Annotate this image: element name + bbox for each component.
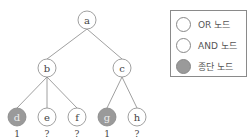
legend-item-and: AND 노드 (176, 36, 237, 54)
tree-node-b: b (38, 59, 56, 77)
and-node-icon (176, 38, 191, 53)
legend-item-terminal: 종단 노드 (176, 57, 233, 75)
or-node-icon (176, 17, 191, 32)
tree-edge (47, 29, 87, 59)
svg-text:c: c (119, 63, 125, 74)
tree-node-g: g1 (98, 108, 116, 139)
terminal-node-icon (176, 59, 191, 74)
node-value: ? (75, 129, 80, 139)
svg-text:a: a (84, 15, 90, 26)
legend-item-or: OR 노드 (176, 15, 230, 33)
svg-text:b: b (44, 63, 50, 74)
svg-text:h: h (134, 112, 141, 123)
svg-text:d: d (14, 112, 21, 123)
node-value: ? (135, 129, 140, 139)
tree-node-d: d1 (8, 108, 26, 139)
legend-label: OR 노드 (198, 18, 230, 31)
legend-label: AND 노드 (198, 39, 237, 52)
tree-edge (47, 77, 77, 108)
tree-node-f: f? (68, 108, 86, 139)
legend-label: 종단 노드 (198, 60, 233, 73)
svg-text:g: g (104, 112, 111, 123)
tree-node-a: a (78, 11, 96, 29)
tree-node-c: c (113, 59, 131, 77)
tree-edge (122, 77, 137, 108)
legend: OR 노드 AND 노드 종단 노드 (170, 10, 247, 77)
node-value: 1 (104, 129, 110, 139)
tree-edge (107, 77, 122, 108)
node-value: 1 (14, 129, 20, 139)
svg-text:e: e (44, 112, 50, 123)
tree-node-h: h? (128, 108, 146, 139)
tree-edge (87, 29, 122, 59)
tree-edge (17, 77, 47, 108)
tree-node-e: e? (38, 108, 56, 139)
node-value: ? (45, 129, 50, 139)
